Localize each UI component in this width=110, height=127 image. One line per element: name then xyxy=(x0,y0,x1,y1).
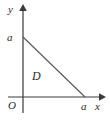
y-axis-label: y xyxy=(8,4,13,15)
origin-label: O xyxy=(8,100,16,111)
x-intercept-tick-label: a xyxy=(81,101,87,112)
y-axis-arrowhead-icon xyxy=(19,4,27,11)
x-axis-label: x xyxy=(95,101,100,112)
coordinate-diagram: y x a a O D xyxy=(0,0,110,127)
region-label-D: D xyxy=(32,70,41,82)
x-axis-arrowhead-icon xyxy=(99,93,106,101)
y-intercept-tick-label: a xyxy=(7,32,13,43)
boundary-line-segment xyxy=(23,37,85,97)
diagram-canvas xyxy=(0,0,110,127)
